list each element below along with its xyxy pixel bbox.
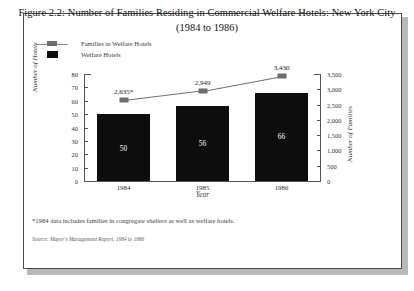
left-axis-tick-label: 60	[72, 97, 78, 104]
line-point-label: 3,430	[274, 64, 290, 72]
legend-label-families: Families in Welfare Hotels	[81, 40, 152, 47]
right-axis-tick	[317, 120, 321, 121]
right-axis-tick-label: 1,000	[327, 147, 341, 154]
figure-title-line1: Figure 2.2: Number of Families Residing …	[0, 5, 414, 20]
left-axis-tick	[84, 74, 88, 75]
chart-legend: Families in Welfare Hotels Welfare Hotel…	[34, 38, 152, 60]
left-axis-tick-label: 30	[72, 137, 78, 144]
right-axis-tick-label: 1,500	[327, 132, 341, 139]
left-axis-tick-label: 80	[72, 71, 78, 78]
bar-value-label: 66	[278, 132, 285, 141]
right-axis-tick	[317, 166, 321, 167]
bar-value-label: 56	[199, 139, 206, 148]
left-axis-tick	[84, 87, 88, 88]
right-axis-tick	[317, 74, 321, 75]
left-axis-tick	[84, 128, 88, 129]
right-axis-tick	[317, 89, 321, 90]
legend-square-gray-icon	[47, 41, 57, 46]
right-axis-tick	[317, 181, 321, 182]
legend-marker-hotels	[34, 50, 70, 60]
left-axis-tick-label: 50	[72, 111, 78, 118]
right-axis-tick-label: 3,000	[327, 86, 341, 93]
left-axis-tick-label: 20	[72, 151, 78, 158]
right-axis-tick-label: 500	[327, 162, 337, 169]
left-axis-tick	[84, 114, 88, 115]
left-axis-tick-label: 10	[72, 164, 78, 171]
line-point-label: 2,949	[195, 79, 211, 87]
x-axis-title: Year	[84, 190, 321, 199]
legend-item-families: Families in Welfare Hotels	[34, 38, 152, 49]
right-axis-tick-label: 0	[327, 178, 330, 185]
left-axis-tick-label: 0	[75, 178, 78, 185]
line-point-label: 2,635*	[114, 88, 133, 96]
figure-footnote: *1984 data includes families in congrega…	[32, 217, 235, 224]
line-point-1984	[119, 98, 128, 103]
right-axis-tick	[317, 105, 321, 106]
figure-source: Source: Mayor's Management Report, 1984 …	[32, 236, 144, 242]
right-axis-title: Number of Families	[346, 106, 354, 162]
line-point-1986	[277, 74, 286, 79]
left-axis-tick	[84, 141, 88, 142]
left-axis-title: Number of Hotels	[31, 42, 39, 92]
plot-area: 0102030405060708005001,0001,5002,0002,50…	[84, 74, 321, 182]
right-axis-tick	[317, 135, 321, 136]
legend-square-black-icon	[47, 51, 58, 58]
left-axis-tick	[84, 154, 88, 155]
left-axis-tick-label: 40	[72, 124, 78, 131]
right-axis-tick	[317, 150, 321, 151]
x-axis-line	[84, 181, 321, 182]
legend-label-hotels: Welfare Hotels	[81, 51, 121, 58]
legend-item-hotels: Welfare Hotels	[34, 49, 152, 60]
legend-marker-families	[34, 39, 70, 49]
left-axis-tick	[84, 168, 88, 169]
figure-title-line2: (1984 to 1986)	[0, 20, 414, 35]
left-axis-tick	[84, 181, 88, 182]
left-axis-tick-label: 70	[72, 84, 78, 91]
line-segment	[202, 76, 281, 92]
right-axis-tick-label: 3,500	[327, 71, 341, 78]
figure-screenshot: Figure 2.2: Number of Families Residing …	[0, 0, 414, 291]
left-axis-tick	[84, 101, 88, 102]
line-point-1985	[198, 88, 207, 93]
line-segment	[123, 91, 202, 102]
right-axis-tick-label: 2,000	[327, 116, 341, 123]
chart-plot-region: Number of Hotels Number of Families 0102…	[33, 66, 353, 196]
right-axis-tick-label: 2,500	[327, 101, 341, 108]
bar-value-label: 50	[120, 144, 127, 153]
